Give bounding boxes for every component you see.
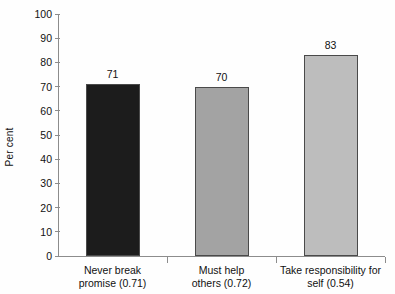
bar — [195, 87, 249, 256]
y-axis-tick: 40 — [0, 153, 64, 165]
y-axis-tick-label: 70 — [6, 81, 52, 93]
x-axis-category-label-line: Take responsibility for — [275, 264, 387, 277]
bar — [86, 84, 140, 256]
y-axis-tick-mark — [55, 14, 60, 15]
y-axis-tick: 100 — [0, 8, 64, 20]
bar-value-label: 83 — [301, 39, 361, 51]
x-axis-category-label-line: Must help — [166, 264, 278, 277]
y-axis-tick: 50 — [0, 129, 64, 141]
x-axis-category-label-line: others (0.72) — [166, 277, 278, 290]
y-axis-tick-label: 100 — [6, 8, 52, 20]
y-axis-tick-mark — [55, 256, 60, 257]
y-axis-tick-mark — [55, 135, 60, 136]
y-axis-tick-label: 80 — [6, 56, 52, 68]
y-axis-tick: 30 — [0, 177, 64, 189]
x-axis-category-label-line: self (0.54) — [275, 277, 387, 290]
y-axis-tick-label: 20 — [6, 202, 52, 214]
y-axis-tick-mark — [55, 183, 60, 184]
y-axis-tick-mark — [55, 38, 60, 39]
y-axis-tick: 80 — [0, 56, 64, 68]
x-axis-tick-mark — [276, 257, 277, 263]
y-axis-tick-mark — [55, 110, 60, 111]
y-axis-tick: 90 — [0, 32, 64, 44]
y-axis-tick: 60 — [0, 105, 64, 117]
bar — [304, 55, 358, 256]
y-axis-tick-label: 30 — [6, 177, 52, 189]
y-axis-tick: 70 — [0, 81, 64, 93]
bar-value-label: 70 — [192, 71, 252, 83]
y-axis-tick: 20 — [0, 202, 64, 214]
y-axis-tick-label: 0 — [6, 250, 52, 262]
y-axis-tick-label: 40 — [6, 153, 52, 165]
y-axis-tick-mark — [55, 62, 60, 63]
x-axis-category-label: Must helpothers (0.72) — [166, 264, 278, 290]
y-axis-tick-label: 60 — [6, 105, 52, 117]
y-axis-tick-label: 90 — [6, 32, 52, 44]
y-axis-tick-mark — [55, 231, 60, 232]
x-axis-category-label-line: Never break — [57, 264, 169, 277]
y-axis-tick: 0 — [0, 250, 64, 262]
bar-value-label: 71 — [83, 68, 143, 80]
y-axis-tick-mark — [55, 86, 60, 87]
y-axis-tick-label: 50 — [6, 129, 52, 141]
y-axis-tick-label: 10 — [6, 226, 52, 238]
y-axis-tick: 10 — [0, 226, 64, 238]
x-axis-tick-mark — [385, 257, 386, 263]
y-axis-tick-mark — [55, 207, 60, 208]
bar-chart: Per cent 0102030405060708090100 717083 N… — [0, 0, 395, 294]
x-axis-line — [58, 256, 385, 257]
x-axis-tick-mark — [167, 257, 168, 263]
y-axis-tick-mark — [55, 159, 60, 160]
x-axis-category-label: Never breakpromise (0.71) — [57, 264, 169, 290]
x-axis-category-label: Take responsibility forself (0.54) — [275, 264, 387, 290]
x-axis-category-label-line: promise (0.71) — [57, 277, 169, 290]
